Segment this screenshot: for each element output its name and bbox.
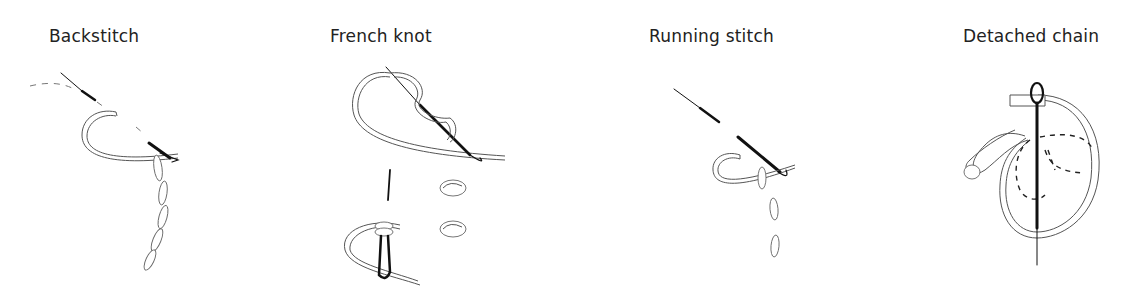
panel-backstitch: Backstitch: [0, 0, 290, 295]
running-stitch-illustration-icon: [640, 0, 880, 295]
backstitch-illustration-icon: [0, 0, 290, 295]
french-knot-illustration-icon: [290, 0, 570, 295]
detached-chain-illustration-icon: [900, 0, 1137, 295]
panel-french-knot: French knot: [290, 0, 570, 295]
panel-running-stitch: Running stitch: [640, 0, 880, 295]
panel-detached-chain: Detached chain: [900, 0, 1137, 295]
